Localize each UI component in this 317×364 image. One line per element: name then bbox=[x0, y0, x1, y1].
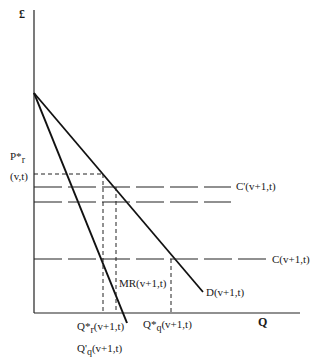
q-prime-q-label: Q'q(v+1,t) bbox=[77, 342, 122, 355]
price-label-paren: (v,t) bbox=[10, 170, 28, 182]
q-star-q-label: Q*q(v+1,t) bbox=[143, 318, 192, 331]
x-axis-label: Q bbox=[258, 316, 267, 328]
cost-high-label: C'(v+1,t) bbox=[236, 180, 276, 192]
mr-label: MR(v+1,t) bbox=[119, 277, 166, 289]
demand-curve bbox=[34, 93, 203, 292]
y-axis-label: £ bbox=[19, 8, 25, 20]
q-star-r-label: Q*r(v+1,t) bbox=[77, 320, 124, 333]
demand-label: D(v+1,t) bbox=[206, 286, 244, 298]
price-label: P*r bbox=[10, 150, 25, 163]
cost-low-label: C(v+1,t) bbox=[272, 253, 310, 265]
marginal-revenue-curve bbox=[34, 93, 127, 323]
